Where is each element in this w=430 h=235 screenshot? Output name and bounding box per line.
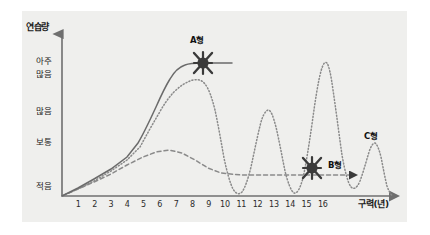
x-tick-16: 16 bbox=[315, 200, 331, 209]
series-b-line bbox=[62, 62, 393, 196]
x-tick-10: 10 bbox=[217, 200, 233, 209]
x-tick-7: 7 bbox=[168, 200, 184, 209]
x-tick-15: 15 bbox=[299, 200, 315, 209]
x-axis-title: 구력(년) bbox=[358, 200, 389, 209]
x-tick-8: 8 bbox=[184, 200, 200, 209]
chart-figure: 연습량 아주 많음 많음 보통 적음 123456789101112131415… bbox=[0, 0, 430, 235]
x-tick-4: 4 bbox=[119, 200, 135, 209]
y-tick-normal: 보통 bbox=[30, 138, 58, 147]
y-axis-title: 연습량 bbox=[26, 23, 49, 32]
series-a-line bbox=[62, 63, 232, 196]
series-label-b: B형 bbox=[328, 161, 342, 170]
x-tick-14: 14 bbox=[282, 200, 298, 209]
x-tick-11: 11 bbox=[233, 200, 249, 209]
y-tick-many: 많음 bbox=[30, 107, 58, 116]
x-tick-3: 3 bbox=[103, 200, 119, 209]
y-tick-very-many-line1: 아주 bbox=[30, 57, 58, 66]
series-label-c: C형 bbox=[364, 132, 378, 141]
x-tick-6: 6 bbox=[152, 200, 168, 209]
series-label-a: A형 bbox=[190, 36, 204, 45]
x-tick-5: 5 bbox=[136, 200, 152, 209]
x-tick-2: 2 bbox=[87, 200, 103, 209]
marker-type-b bbox=[303, 157, 321, 179]
y-tick-very-many-line2: 많음 bbox=[30, 70, 58, 79]
marker-type-a bbox=[194, 52, 212, 74]
x-tick-9: 9 bbox=[201, 200, 217, 209]
y-tick-few: 적음 bbox=[30, 182, 58, 191]
x-tick-13: 13 bbox=[266, 200, 282, 209]
x-tick-12: 12 bbox=[250, 200, 266, 209]
x-tick-1: 1 bbox=[70, 200, 86, 209]
